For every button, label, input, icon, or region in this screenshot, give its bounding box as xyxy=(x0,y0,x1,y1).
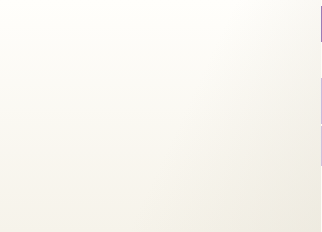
y-tick-label-2000: 2 000 xyxy=(1,165,33,175)
bar-4 xyxy=(192,72,223,207)
y-tick-label-0: 0 xyxy=(1,201,33,211)
annotation-leader-line xyxy=(37,164,280,165)
figure-title-line-2: and the Pacific (million tonnes carbon) xyxy=(28,25,283,41)
bar-3 xyxy=(143,126,174,207)
margin-swatch-1 xyxy=(306,6,322,42)
y-axis-tick-labels: 02 0004 0006 0008 000 xyxy=(0,62,33,208)
y-tickmark-6000 xyxy=(33,98,37,99)
coal-icon xyxy=(99,180,121,202)
y-tickmark-0 xyxy=(33,207,37,208)
y-tickmark-8000 xyxy=(33,62,37,63)
bar-chart: 02 0004 0006 0008 000 2002 xyxy=(0,48,300,224)
y-tickmark-2000 xyxy=(33,171,37,172)
figure-title-line-1: Energy-related carbon dioxide emissions:… xyxy=(28,9,283,25)
y-tick-label-6000: 6 000 xyxy=(1,92,33,102)
lock-icon xyxy=(196,180,218,202)
y-tick-label-4000: 4 000 xyxy=(1,129,33,139)
margin-swatch-3 xyxy=(306,126,322,166)
document-icon xyxy=(148,180,170,202)
bar-2 xyxy=(94,99,125,207)
gridline-6000 xyxy=(37,98,280,99)
margin-swatch-2 xyxy=(306,78,322,124)
figure-title: Energy-related carbon dioxide emissions:… xyxy=(28,9,283,40)
gridline-8000 xyxy=(37,62,280,63)
bar-1 xyxy=(46,164,77,208)
figure-title-band: Energy-related carbon dioxide emissions:… xyxy=(11,4,293,45)
sun-icon xyxy=(245,180,267,202)
y-tickmark-4000 xyxy=(33,135,37,136)
page-margin-column xyxy=(301,0,322,232)
y-tick-label-8000: 8 000 xyxy=(1,56,33,66)
